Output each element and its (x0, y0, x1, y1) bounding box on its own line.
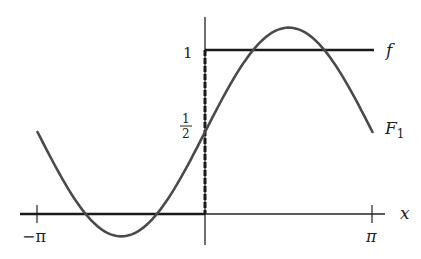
x-tick-label-pi: π (365, 227, 377, 246)
y-tick-label-half-den: 2 (182, 127, 190, 141)
f-label: f (384, 40, 395, 60)
fourier-plot: 1 1 2 −π π x f F1 (0, 0, 421, 259)
x-axis-label: x (400, 203, 410, 223)
x-tick-label-neg-pi: −π (22, 227, 46, 246)
F1-label: F1 (384, 118, 404, 141)
y-tick-label-half-num: 1 (182, 112, 190, 126)
y-tick-label-one: 1 (183, 44, 193, 62)
